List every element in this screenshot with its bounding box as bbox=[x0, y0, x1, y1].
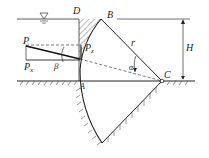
label-H: H bbox=[185, 42, 194, 53]
label-Pz: Pz bbox=[84, 42, 94, 55]
radial-gate-diagram: D B H r α C A P Px Pz β bbox=[0, 0, 209, 158]
label-alpha: α bbox=[129, 63, 134, 72]
label-Px: Px bbox=[23, 61, 34, 74]
water-surface-icon bbox=[40, 13, 48, 23]
ground-hatch-right bbox=[167, 81, 188, 85]
ground-hatch-left bbox=[20, 81, 77, 85]
label-r: r bbox=[131, 37, 135, 48]
force-action-line bbox=[80, 59, 162, 81]
label-D: D bbox=[72, 5, 81, 16]
resultant-force-P bbox=[26, 46, 80, 59]
label-beta: β bbox=[53, 61, 59, 71]
label-P: P bbox=[22, 35, 29, 46]
label-B: B bbox=[107, 9, 113, 20]
label-C: C bbox=[164, 69, 171, 80]
label-A: A bbox=[79, 82, 85, 91]
